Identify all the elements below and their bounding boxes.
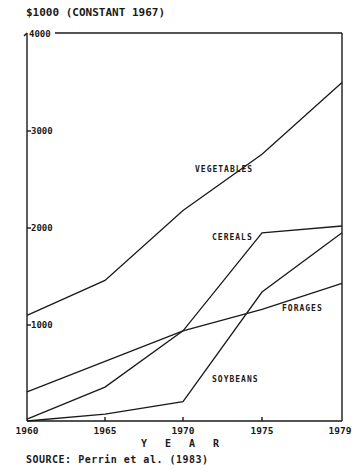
series-label-forages: FORAGES xyxy=(282,304,323,313)
chart-title: $1000 (CONSTANT 1967) xyxy=(26,6,165,19)
x-label-1970: 1970 xyxy=(172,425,195,436)
series-label-cereals: CEREALS xyxy=(212,233,253,242)
plot-frame xyxy=(24,33,342,421)
y-label-2000: 2000 xyxy=(31,223,53,233)
series-line-forages xyxy=(27,283,342,392)
series-label-vegetables: VEGETABLES xyxy=(195,165,253,174)
x-label-1975: 1975 xyxy=(251,425,274,436)
line-chart: $1000 (CONSTANT 1967) 4000 3000 2000 100… xyxy=(0,0,360,475)
x-label-1960: 1960 xyxy=(16,425,39,436)
x-axis-title: Y E A R xyxy=(141,438,225,449)
x-label-1965: 1965 xyxy=(94,425,117,436)
x-label-1979: 1979 xyxy=(329,425,352,436)
y-ticks: 4000 3000 2000 1000 xyxy=(27,29,53,330)
x-ticks: 1960 1965 1970 1975 1979 xyxy=(16,417,352,436)
source-note: SOURCE: Perrin et al. (1983) xyxy=(26,454,209,465)
series-label-soybeans: SOYBEANS xyxy=(212,375,259,384)
y-label-1000: 1000 xyxy=(31,320,53,330)
series-line-cereals xyxy=(27,226,342,419)
series-lines xyxy=(27,83,342,422)
y-label-4000: 4000 xyxy=(29,29,51,39)
y-label-3000: 3000 xyxy=(31,126,53,136)
series-line-vegetables xyxy=(27,83,342,316)
series-line-soybeans xyxy=(27,233,342,421)
